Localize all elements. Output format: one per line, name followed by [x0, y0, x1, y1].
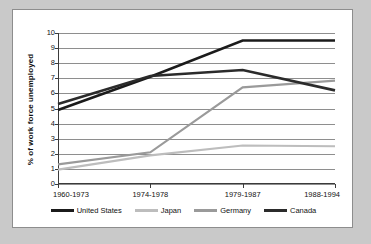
- y-tick-mark: [55, 154, 58, 155]
- y-tick-mark: [55, 109, 58, 110]
- legend-swatch-icon: [264, 209, 287, 212]
- series-line: [58, 81, 335, 165]
- y-tick-label: 9: [39, 44, 55, 52]
- chart-card: % of work force unemployed 109876543210 …: [12, 9, 353, 228]
- series-line: [58, 41, 335, 110]
- legend-label: Germany: [220, 206, 251, 215]
- x-tick-mark: [243, 184, 244, 188]
- legend-label: Canada: [290, 206, 316, 215]
- series-line: [58, 70, 335, 104]
- y-tick-mark: [55, 63, 58, 64]
- x-tick-mark: [58, 184, 59, 188]
- legend-swatch-icon: [135, 209, 158, 212]
- plot-area: [58, 33, 335, 184]
- y-tick-label: 5: [39, 105, 55, 113]
- y-axis-label: % of work force unemployed: [26, 46, 35, 174]
- legend-swatch-icon: [194, 209, 217, 212]
- y-tick-mark: [55, 33, 58, 34]
- legend-entry[interactable]: Canada: [264, 206, 316, 215]
- y-tick-label: 4: [39, 120, 55, 128]
- legend-label: Japan: [161, 206, 181, 215]
- figure-root: % of work force unemployed 109876543210 …: [0, 0, 371, 244]
- y-tick-mark: [55, 93, 58, 94]
- legend-swatch-icon: [51, 209, 74, 212]
- legend-entry[interactable]: United States: [51, 206, 122, 215]
- y-tick-label: 3: [39, 135, 55, 143]
- x-tick-mark: [335, 184, 336, 188]
- x-tick-label: 1979-1987: [225, 190, 261, 199]
- chart-inner: % of work force unemployed 109876543210 …: [13, 10, 352, 227]
- gridline: [58, 184, 335, 185]
- x-tick-label: 1974-1978: [132, 190, 168, 199]
- y-tick-label: 8: [39, 59, 55, 67]
- x-axis-tick-labels: 1960-19731974-19781979-19871988-1994: [58, 190, 335, 202]
- y-tick-label: 1: [39, 165, 55, 173]
- y-tick-mark: [55, 48, 58, 49]
- y-tick-label: 0: [39, 180, 55, 188]
- legend-label: United States: [77, 206, 122, 215]
- x-tick-label: 1960-1973: [53, 190, 89, 199]
- y-tick-label: 10: [39, 29, 55, 37]
- y-tick-label: 6: [39, 89, 55, 97]
- y-tick-label: 2: [39, 150, 55, 158]
- y-tick-mark: [55, 169, 58, 170]
- y-tick-label: 7: [39, 74, 55, 82]
- x-tick-label: 1988-1994: [304, 190, 340, 199]
- series-lines: [58, 33, 335, 184]
- series-line: [58, 146, 335, 170]
- x-tick-mark: [150, 184, 151, 188]
- legend-entry[interactable]: Germany: [194, 206, 251, 215]
- legend: United StatesJapanGermanyCanada: [13, 206, 354, 215]
- y-tick-mark: [55, 78, 58, 79]
- y-tick-mark: [55, 139, 58, 140]
- y-tick-mark: [55, 184, 58, 185]
- legend-entry[interactable]: Japan: [135, 206, 181, 215]
- y-tick-mark: [55, 124, 58, 125]
